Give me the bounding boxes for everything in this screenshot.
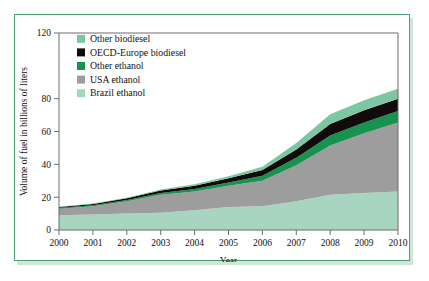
- x-tick-label: 2005: [219, 238, 238, 248]
- x-tick-label: 2003: [151, 238, 170, 248]
- y-axis-title: Volume of fuel in billions of liters: [19, 67, 29, 196]
- legend-label: USA ethanol: [90, 74, 141, 85]
- y-tick-label: 0: [46, 225, 51, 235]
- chart-container: 0204060801202000200120022003200420052006…: [15, 15, 409, 260]
- x-tick-label: 2007: [287, 238, 306, 248]
- x-tick-label: 2002: [117, 238, 136, 248]
- x-tick-label: 2000: [50, 238, 69, 248]
- legend-swatch: [77, 62, 85, 70]
- y-tick-label: 20: [42, 193, 52, 203]
- x-tick-label: 2004: [185, 238, 204, 248]
- figure-card: 0204060801202000200120022003200420052006…: [14, 14, 410, 261]
- x-tick-label: 2006: [253, 238, 272, 248]
- y-tick-label: 120: [37, 28, 52, 38]
- x-tick-label: 2001: [83, 238, 102, 248]
- legend-label: OECD-Europe biodiesel: [90, 47, 186, 58]
- chart-series-group: [59, 89, 398, 230]
- legend-label: Brazil ethanol: [90, 87, 146, 98]
- y-tick-label: 60: [42, 127, 52, 137]
- legend-swatch: [77, 35, 85, 43]
- chart-legend: Other biodieselOECD-Europe biodieselOthe…: [77, 33, 186, 98]
- stacked-area-chart: 0204060801202000200120022003200420052006…: [15, 15, 411, 262]
- y-tick-label: 40: [42, 160, 52, 170]
- legend-label: Other ethanol: [90, 60, 144, 71]
- x-axis-title: Year: [220, 256, 238, 262]
- legend-swatch: [77, 76, 85, 84]
- x-tick-label: 2009: [355, 238, 374, 248]
- x-tick-label: 2010: [389, 238, 408, 248]
- x-tick-label: 2008: [321, 238, 340, 248]
- legend-swatch: [77, 89, 85, 97]
- legend-label: Other biodiesel: [90, 33, 150, 44]
- legend-swatch: [77, 48, 85, 56]
- y-tick-label: 80: [42, 94, 52, 104]
